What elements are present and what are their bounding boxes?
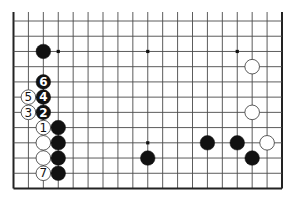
black-stone-icon bbox=[51, 166, 66, 181]
white-stone: 1 bbox=[36, 120, 51, 135]
black-stone bbox=[245, 151, 260, 166]
black-stone-icon bbox=[36, 44, 51, 59]
black-stone-icon bbox=[51, 120, 66, 135]
black-stone-icon bbox=[200, 136, 215, 151]
white-stone: 3 bbox=[21, 105, 36, 120]
white-stone-icon bbox=[36, 136, 51, 151]
black-stone-icon bbox=[245, 151, 260, 166]
move-number-label: 6 bbox=[39, 75, 47, 89]
star-point-icon bbox=[57, 50, 60, 53]
white-stone bbox=[36, 151, 51, 166]
move-number-label: 4 bbox=[39, 90, 47, 104]
black-stone bbox=[51, 136, 66, 151]
white-stone-icon bbox=[245, 59, 260, 74]
black-stone-icon bbox=[230, 136, 245, 151]
black-stone bbox=[51, 120, 66, 135]
black-stone-icon bbox=[51, 136, 66, 151]
move-number-label: 2 bbox=[39, 106, 47, 120]
black-stone bbox=[200, 136, 215, 151]
white-stone: 7 bbox=[36, 166, 51, 181]
move-number-label: 1 bbox=[40, 121, 48, 135]
star-point-icon bbox=[146, 50, 149, 53]
white-stone bbox=[36, 136, 51, 151]
star-point-icon bbox=[236, 50, 239, 53]
black-stone-icon bbox=[51, 151, 66, 166]
white-stone bbox=[245, 105, 260, 120]
white-stone-icon bbox=[245, 105, 260, 120]
move-number-label: 7 bbox=[40, 166, 48, 180]
black-stone: 6 bbox=[36, 75, 51, 90]
move-number-label: 5 bbox=[25, 90, 33, 104]
black-stone bbox=[51, 166, 66, 181]
move-number-label: 3 bbox=[25, 106, 33, 120]
white-stone-icon bbox=[36, 151, 51, 166]
black-stone bbox=[230, 136, 245, 151]
black-stone bbox=[140, 151, 155, 166]
star-point-icon bbox=[146, 141, 149, 144]
black-stone: 4 bbox=[36, 90, 51, 105]
white-stone bbox=[245, 59, 260, 74]
black-stone: 2 bbox=[36, 105, 51, 120]
go-board-diagram: 6543217 bbox=[0, 0, 292, 201]
black-stone bbox=[51, 151, 66, 166]
white-stone-icon bbox=[260, 136, 275, 151]
black-stone-icon bbox=[140, 151, 155, 166]
white-stone: 5 bbox=[21, 90, 36, 105]
black-stone bbox=[36, 44, 51, 59]
white-stone bbox=[260, 136, 275, 151]
